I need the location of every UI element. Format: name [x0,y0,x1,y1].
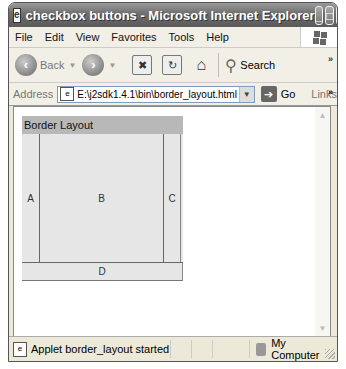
back-arrow-icon[interactable]: ‹ [15,54,37,76]
toolbar-overflow-chevron-icon[interactable]: » [328,54,333,64]
toolbar-separator [218,53,219,77]
status-pane [191,340,212,358]
vertical-scrollbar[interactable]: ▲ ▼ [315,107,330,337]
region-d-label: D [98,266,105,277]
search-icon[interactable]: ⚲ [225,56,237,75]
page-icon: e [60,87,74,101]
menu-tools[interactable]: Tools [163,31,201,43]
forward-dropdown-icon[interactable]: ▼ [108,61,116,70]
ie-page-icon: e [13,8,21,23]
region-a-label: A [27,193,34,204]
status-pane [212,340,233,358]
address-dropdown-icon[interactable]: ▼ [239,87,254,102]
stop-icon[interactable]: ✖ [132,55,152,75]
page-content: Border Layout A B C D ▲ ▼ [13,106,331,338]
address-input[interactable]: e E:\j2sdk1.4.1\bin\border_layout.html ▼ [57,86,254,103]
scroll-up-icon[interactable]: ▲ [316,109,329,122]
center-region-b[interactable]: B [39,134,164,262]
border-layout-applet: Border Layout A B C D [22,116,183,281]
address-label: Address [9,88,57,100]
go-button[interactable]: ➔ Go [261,86,296,102]
west-region-a[interactable]: A [22,134,39,262]
east-region-c[interactable]: C [164,134,181,262]
minimize-button[interactable]: _ [315,6,324,25]
region-b-label: B [98,193,105,204]
back-button-label[interactable]: Back [40,59,64,71]
windows-logo-icon [300,27,337,47]
maximize-button[interactable]: □ [325,6,334,25]
applet-title: Border Layout [22,116,183,134]
menu-bar: File Edit View Favorites Tools Help [9,27,337,48]
address-value[interactable]: E:\j2sdk1.4.1\bin\border_layout.html [77,89,238,100]
close-button[interactable]: ✕ [336,6,338,25]
forward-arrow-icon[interactable]: › [82,54,104,76]
region-c-label: C [168,193,175,204]
menu-edit[interactable]: Edit [39,31,70,43]
go-label: Go [281,88,296,100]
refresh-icon[interactable]: ↻ [162,55,182,75]
my-computer-icon [256,343,266,356]
browser-window: e checkbox buttons - Microsoft Internet … [8,2,338,362]
links-button[interactable]: Links [311,88,337,100]
search-button-label[interactable]: Search [240,59,275,71]
back-dropdown-icon[interactable]: ▼ [68,61,76,70]
menu-help[interactable]: Help [200,31,235,43]
go-arrow-icon: ➔ [261,86,277,102]
links-chevron-icon[interactable]: » [328,87,333,97]
status-page-icon: e [13,342,27,357]
scroll-down-icon[interactable]: ▼ [316,322,329,335]
menu-favorites[interactable]: Favorites [105,31,162,43]
address-bar: Address e E:\j2sdk1.4.1\bin\border_layou… [9,83,337,106]
window-title: checkbox buttons - Microsoft Internet Ex… [26,8,315,23]
title-bar[interactable]: e checkbox buttons - Microsoft Internet … [9,3,337,27]
status-pane [170,340,191,358]
resize-grip-icon[interactable] [325,349,335,359]
south-region-d[interactable]: D [22,262,183,281]
menu-file[interactable]: File [9,31,39,43]
status-bar: e Applet border_layout started My Comput… [9,336,337,361]
security-zone: My Computer [249,340,337,358]
home-icon[interactable]: ⌂ [192,56,210,74]
standard-toolbar: ‹ Back ▼ › ▼ ✖ ↻ ⌂ ⚲ Search » [9,48,337,83]
menu-view[interactable]: View [70,31,106,43]
status-message: Applet border_layout started [31,343,171,355]
